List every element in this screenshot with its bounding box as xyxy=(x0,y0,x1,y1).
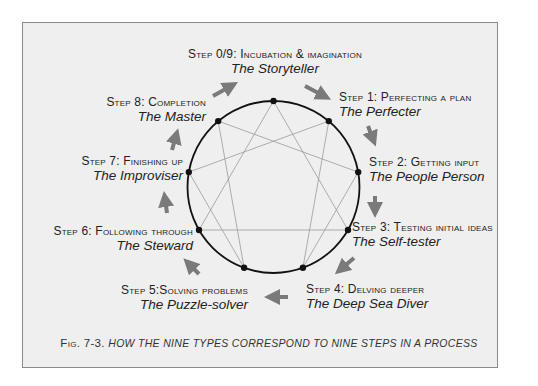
step-role: The Perfecter xyxy=(339,105,471,119)
step-9-label: Step 0/9: Incubation & imagination The S… xyxy=(170,48,380,76)
arrow-8-to-9 xyxy=(213,86,231,96)
step-title: Step 7: Finishing up xyxy=(40,155,183,167)
step-6-label: Step 6: Following through The Steward xyxy=(30,225,193,253)
step-title: Step 2: Getting input xyxy=(369,156,485,168)
step-role: The Self-tester xyxy=(352,235,493,249)
step-5-label: Step 5:Solving problems The Puzzle-solve… xyxy=(100,284,248,312)
enneagram-points xyxy=(186,98,362,271)
step-3-label: Step 3: Testing initial ideas The Self-t… xyxy=(352,221,493,249)
step-role: The Master xyxy=(60,110,206,124)
step-title: Step 1: Perfecting a plan xyxy=(339,91,471,103)
step-8-label: Step 8: Completion The Master xyxy=(60,96,206,124)
step-title: Step 0/9: Incubation & imagination xyxy=(170,48,380,60)
arrow-7-to-8 xyxy=(172,136,176,150)
step-1-label: Step 1: Perfecting a plan The Perfecter xyxy=(339,91,471,119)
step-role: The Storyteller xyxy=(170,62,380,76)
step-role: The Puzzle-solver xyxy=(100,298,248,312)
step-title: Step 3: Testing initial ideas xyxy=(352,221,493,233)
step-7-label: Step 7: Finishing up The Improviser xyxy=(40,155,183,183)
step-title: Step 8: Completion xyxy=(60,96,206,108)
arrow-1-to-2 xyxy=(368,126,373,139)
arrow-3-to-4 xyxy=(341,258,354,269)
arrow-9-to-1 xyxy=(305,86,324,96)
enneagram-circle xyxy=(188,101,360,273)
step-role: The People Person xyxy=(369,170,485,184)
arrow-5-to-6 xyxy=(189,264,199,274)
caption-text: how the nine types correspond to nine st… xyxy=(108,337,477,349)
step-role: The Deep Sea Diver xyxy=(306,297,428,311)
step-2-label: Step 2: Getting input The People Person xyxy=(369,156,485,184)
step-role: The Steward xyxy=(30,239,193,253)
arrow-6-to-7 xyxy=(165,199,167,213)
figure-caption: Fig. 7-3. how the nine types correspond … xyxy=(0,337,538,349)
step-title: Step 4: Delving deeper xyxy=(306,283,428,295)
caption-number: Fig. 7-3. xyxy=(60,337,104,349)
step-role: The Improviser xyxy=(40,169,183,183)
step-title: Step 5:Solving problems xyxy=(100,284,248,296)
enneagram-inner-lines xyxy=(189,101,358,268)
step-title: Step 6: Following through xyxy=(30,225,193,237)
step-4-label: Step 4: Delving deeper The Deep Sea Dive… xyxy=(306,283,428,311)
